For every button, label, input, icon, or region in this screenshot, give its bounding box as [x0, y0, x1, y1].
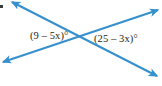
geometry-figure: (9 – 5x)° (25 – 3x)°: [0, 0, 162, 86]
angle-label-left: (9 – 5x)°: [30, 31, 68, 42]
angle-label-right: (25 – 3x)°: [94, 34, 138, 45]
edge-artifact-mark: [0, 5, 3, 8]
